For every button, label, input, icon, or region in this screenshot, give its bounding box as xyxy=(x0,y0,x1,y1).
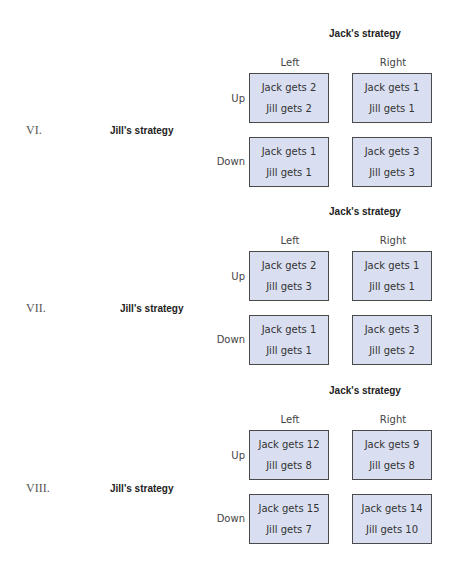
column-label-right: Right xyxy=(352,414,434,425)
jack-payoff: Jack gets 2 xyxy=(262,82,317,93)
jill-payoff: Jill gets 1 xyxy=(266,167,312,178)
payoff-cell-up-left: Jack gets 2 Jill gets 3 xyxy=(249,251,329,301)
row-player-label: Jill's strategy xyxy=(110,483,174,494)
payoff-matrix-viii: Jack's strategy Left Right Up Down VIII.… xyxy=(0,357,459,527)
jack-payoff: Jack gets 12 xyxy=(258,439,319,450)
game-number: VII. xyxy=(26,301,46,316)
jill-payoff: Jill gets 1 xyxy=(266,345,312,356)
jack-payoff: Jack gets 1 xyxy=(365,82,420,93)
jill-payoff: Jill gets 2 xyxy=(369,345,415,356)
jack-payoff: Jack gets 14 xyxy=(361,503,422,514)
payoff-cell-up-left: Jack gets 2 Jill gets 2 xyxy=(249,73,329,123)
jack-payoff: Jack gets 2 xyxy=(262,260,317,271)
jack-payoff: Jack gets 1 xyxy=(262,324,317,335)
column-label-right: Right xyxy=(352,235,434,246)
jack-payoff: Jack gets 9 xyxy=(365,439,420,450)
payoff-cell-up-right: Jack gets 1 Jill gets 1 xyxy=(352,73,432,123)
row-label-up: Up xyxy=(205,93,245,104)
jill-payoff: Jill gets 8 xyxy=(369,460,415,471)
jill-payoff: Jill gets 1 xyxy=(369,281,415,292)
jill-payoff: Jill gets 8 xyxy=(266,460,312,471)
payoff-cell-down-left: Jack gets 15 Jill gets 7 xyxy=(249,494,329,544)
column-label-left: Left xyxy=(249,414,331,425)
row-player-label: Jill's strategy xyxy=(110,125,174,136)
payoff-cell-up-left: Jack gets 12 Jill gets 8 xyxy=(249,430,329,480)
payoff-cell-down-right: Jack gets 14 Jill gets 10 xyxy=(352,494,432,544)
column-player-label: Jack's strategy xyxy=(290,28,440,39)
column-player-label: Jack's strategy xyxy=(290,385,440,396)
row-label-down: Down xyxy=(205,513,245,524)
payoff-cell-up-right: Jack gets 9 Jill gets 8 xyxy=(352,430,432,480)
column-label-left: Left xyxy=(249,235,331,246)
payoff-cell-up-right: Jack gets 1 Jill gets 1 xyxy=(352,251,432,301)
jack-payoff: Jack gets 1 xyxy=(262,146,317,157)
row-player-label: Jill's strategy xyxy=(120,303,184,314)
jill-payoff: Jill gets 3 xyxy=(266,281,312,292)
jill-payoff: Jill gets 2 xyxy=(266,103,312,114)
jill-payoff: Jill gets 7 xyxy=(266,524,312,535)
game-number: VI. xyxy=(26,123,42,138)
row-label-down: Down xyxy=(205,156,245,167)
jack-payoff: Jack gets 3 xyxy=(365,324,420,335)
column-label-left: Left xyxy=(249,57,331,68)
column-player-label: Jack's strategy xyxy=(290,206,440,217)
payoff-matrix-vii: Jack's strategy Left Right Up Down VII. … xyxy=(0,178,459,348)
column-label-right: Right xyxy=(352,57,434,68)
jill-payoff: Jill gets 1 xyxy=(369,103,415,114)
jack-payoff: Jack gets 1 xyxy=(365,260,420,271)
row-label-up: Up xyxy=(205,450,245,461)
jill-payoff: Jill gets 3 xyxy=(369,167,415,178)
row-label-down: Down xyxy=(205,334,245,345)
payoff-matrix-vi: Jack's strategy Left Right Up Down VI. J… xyxy=(0,0,459,170)
game-number: VIII. xyxy=(26,481,50,496)
jill-payoff: Jill gets 10 xyxy=(366,524,418,535)
row-label-up: Up xyxy=(205,271,245,282)
jack-payoff: Jack gets 3 xyxy=(365,146,420,157)
jack-payoff: Jack gets 15 xyxy=(258,503,319,514)
